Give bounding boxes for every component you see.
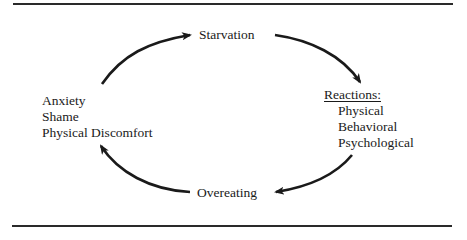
- arrow-top-to-right: [275, 35, 360, 82]
- node-overeating: Overeating: [197, 184, 257, 201]
- arrow-left-to-top: [102, 35, 190, 84]
- feeling-item: Physical Discomfort: [42, 124, 153, 141]
- node-starvation: Starvation: [199, 26, 255, 43]
- reaction-item: Behavioral: [338, 118, 397, 135]
- reactions-heading: Reactions:: [324, 86, 381, 103]
- feeling-item: Shame: [42, 108, 79, 125]
- feeling-item: Anxiety: [42, 92, 86, 109]
- arrow-right-to-bottom: [276, 155, 352, 192]
- reaction-item: Physical: [338, 102, 384, 119]
- arrow-bottom-to-left: [101, 146, 190, 192]
- reaction-item: Psychological: [338, 134, 414, 151]
